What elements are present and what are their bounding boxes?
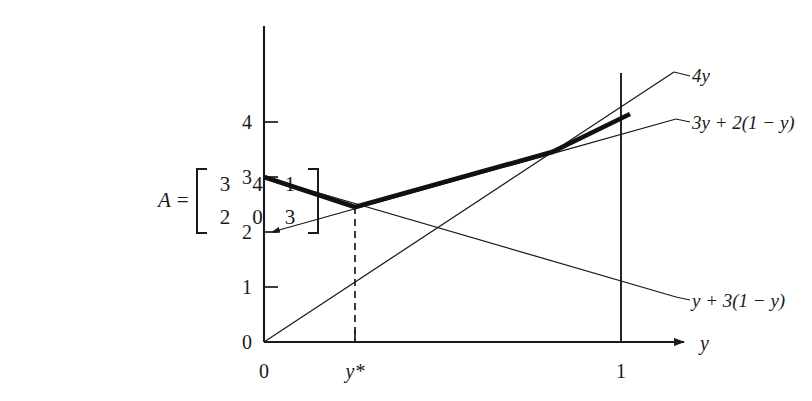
y-tick-label-2: 2	[242, 221, 252, 243]
figure-root: A = 3 4 1 2 0 3	[0, 0, 812, 401]
envelope-curve	[264, 114, 630, 207]
x-tick-label-ystar: y*	[344, 360, 365, 383]
line-4y	[264, 72, 674, 342]
leader-y3	[676, 297, 690, 300]
y-tick-label-1: 1	[242, 276, 252, 298]
leader-3y2	[676, 119, 690, 122]
y-tick-label-3: 3	[242, 166, 252, 188]
x-tick-label-0: 0	[259, 360, 269, 382]
x-tick-label-one: 1	[616, 360, 626, 382]
envelope-plot: 0 1 2 3 4 0 y* 1	[0, 0, 812, 401]
y-tick-label-0: 0	[242, 331, 252, 353]
leader-4y	[674, 72, 690, 76]
curve-label-4y: 4y	[692, 65, 711, 86]
curve-label-y-plus-3: y + 3(1 − y)	[690, 290, 785, 312]
x-axis-label: y	[698, 332, 709, 355]
x-tick-label-ystar-text: y*	[344, 360, 365, 383]
y-tick-label-4: 4	[242, 111, 252, 133]
curve-label-3y-plus-2: 3y + 2(1 − y)	[691, 112, 795, 134]
